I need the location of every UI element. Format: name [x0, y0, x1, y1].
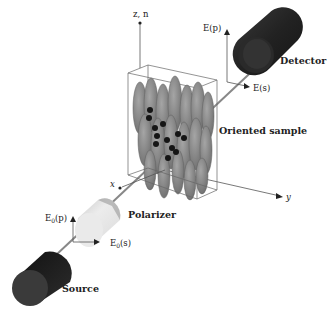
molecule-marker	[160, 121, 166, 127]
z-axis	[138, 21, 141, 68]
molecule-marker	[175, 131, 181, 137]
oriented-sample-label: Oriented sample	[219, 125, 307, 136]
molecule-marker	[164, 137, 170, 143]
molecule-marker	[146, 115, 152, 121]
e-s-label: E(s)	[253, 83, 270, 93]
y-axis-label: y	[285, 192, 291, 202]
molecule-marker	[154, 133, 160, 139]
e0-s-label: E0(s)	[110, 238, 131, 249]
polarizer-label: Polarizer	[128, 209, 177, 220]
oriented-molecules	[133, 76, 214, 200]
source-label: Source	[62, 283, 99, 294]
molecule-marker	[173, 149, 179, 155]
molecule-marker	[181, 135, 187, 141]
source-cylinder[interactable]	[12, 251, 72, 306]
molecule-ellipse	[196, 158, 208, 194]
molecule-marker	[153, 141, 159, 147]
detector-label: Detector	[280, 55, 327, 66]
molecule-ellipse	[172, 150, 184, 194]
molecule-marker	[165, 155, 171, 161]
e-p-label: E(p)	[203, 23, 221, 33]
e0-p-label: E0(p)	[45, 213, 67, 224]
z-axis-label: z, n	[133, 9, 149, 19]
molecule-marker	[152, 125, 158, 131]
molecule-marker	[147, 107, 153, 113]
x-axis-label: x	[110, 179, 115, 189]
diagram-canvas: z, n E(p) Detector E(s) Oriented sample …	[0, 0, 330, 310]
